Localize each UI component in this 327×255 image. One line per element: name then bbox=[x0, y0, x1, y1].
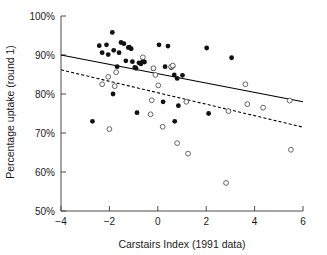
data-point-open bbox=[287, 98, 292, 103]
data-points bbox=[90, 30, 293, 185]
data-point-open bbox=[184, 99, 189, 104]
data-point-filled bbox=[163, 64, 168, 69]
data-point-open bbox=[289, 147, 294, 152]
data-point-open bbox=[175, 141, 180, 146]
y-tick-label: 100% bbox=[29, 11, 55, 22]
data-point-filled bbox=[100, 50, 105, 55]
data-point-filled bbox=[104, 42, 109, 47]
data-point-filled bbox=[166, 44, 171, 49]
x-axis-title: Carstairs Index (1991 data) bbox=[118, 238, 245, 250]
data-point-filled bbox=[110, 30, 115, 35]
data-point-filled bbox=[117, 50, 122, 55]
x-tick-label: 4 bbox=[252, 216, 258, 227]
x-tick-label: 2 bbox=[203, 216, 209, 227]
data-point-filled bbox=[122, 41, 127, 46]
data-point-open bbox=[114, 70, 119, 75]
data-point-filled bbox=[161, 99, 166, 104]
x-tick-label: 0 bbox=[155, 216, 161, 227]
data-point-filled bbox=[130, 59, 135, 64]
x-tick-label: −4 bbox=[55, 216, 67, 227]
data-point-open bbox=[245, 102, 250, 107]
y-tick-label: 60% bbox=[35, 167, 55, 178]
data-point-filled bbox=[175, 76, 180, 81]
chart-canvas: −4−20246 50%60%70%80%90%100% Carstairs I… bbox=[0, 0, 327, 255]
x-tick-label: −2 bbox=[104, 216, 116, 227]
fit-lines bbox=[61, 55, 303, 127]
data-point-open bbox=[156, 83, 161, 88]
data-point-filled bbox=[90, 119, 95, 124]
data-point-open bbox=[261, 105, 266, 110]
y-axis-title: Percentage uptake (round 1) bbox=[4, 45, 16, 179]
data-point-filled bbox=[157, 42, 162, 47]
data-point-filled bbox=[106, 52, 111, 57]
x-tick-label: 6 bbox=[300, 216, 306, 227]
data-point-open bbox=[186, 151, 191, 156]
y-tick-label: 90% bbox=[35, 50, 55, 61]
data-point-open bbox=[148, 112, 153, 117]
data-point-open bbox=[153, 72, 158, 77]
data-point-filled bbox=[142, 60, 147, 65]
data-point-open bbox=[100, 82, 105, 87]
data-point-filled bbox=[229, 55, 234, 60]
data-point-filled bbox=[123, 58, 128, 63]
data-point-open bbox=[160, 124, 165, 129]
data-point-filled bbox=[176, 103, 181, 108]
data-point-filled bbox=[204, 46, 209, 51]
data-point-filled bbox=[111, 92, 116, 97]
data-point-open bbox=[151, 66, 156, 71]
y-tick-label: 80% bbox=[35, 89, 55, 100]
y-tick-label: 50% bbox=[35, 206, 55, 217]
data-point-open bbox=[112, 84, 117, 89]
data-point-filled bbox=[111, 48, 116, 53]
scatter-chart: −4−20246 50%60%70%80%90%100% Carstairs I… bbox=[0, 0, 327, 255]
data-point-filled bbox=[180, 73, 185, 78]
data-point-open bbox=[107, 127, 112, 132]
data-point-filled bbox=[134, 66, 139, 71]
data-point-filled bbox=[129, 46, 134, 51]
data-point-filled bbox=[97, 43, 102, 48]
y-tick-label: 70% bbox=[35, 128, 55, 139]
data-point-open bbox=[140, 55, 145, 60]
data-point-filled bbox=[172, 119, 177, 124]
data-point-open bbox=[226, 109, 231, 114]
data-point-filled bbox=[206, 111, 211, 116]
data-point-open bbox=[243, 82, 248, 87]
data-point-open bbox=[170, 63, 175, 68]
data-point-open bbox=[106, 74, 111, 79]
data-point-filled bbox=[135, 110, 140, 115]
y-tick-labels: 50%60%70%80%90%100% bbox=[29, 11, 55, 217]
data-point-open bbox=[149, 98, 154, 103]
data-point-filled bbox=[115, 64, 120, 69]
x-tick-labels: −4−20246 bbox=[55, 216, 306, 227]
data-point-open bbox=[224, 181, 229, 186]
